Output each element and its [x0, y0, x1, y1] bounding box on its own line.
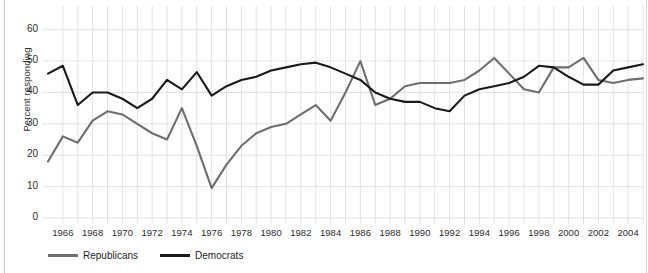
- x-tick-label: 1968: [78, 227, 108, 238]
- x-tick-label: 1984: [316, 227, 346, 238]
- x-tick-label: 1988: [375, 227, 405, 238]
- x-tick-label: 1992: [435, 227, 465, 238]
- y-tick-label: 0: [16, 211, 38, 222]
- x-tick-label: 1986: [345, 227, 375, 238]
- x-tick-label: 1978: [226, 227, 256, 238]
- legend-label-democrats: Democrats: [195, 250, 243, 261]
- x-tick-label: 1998: [524, 227, 554, 238]
- y-tick-label: 50: [16, 54, 38, 65]
- y-tick-label: 40: [16, 85, 38, 96]
- legend-item-democrats: Democrats: [160, 250, 243, 261]
- chart-legend: Republicans Democrats: [48, 250, 257, 261]
- x-tick-label: 1970: [107, 227, 137, 238]
- legend-swatch-republicans: [48, 254, 78, 257]
- legend-swatch-democrats: [160, 254, 190, 257]
- y-tick-label: 60: [16, 23, 38, 34]
- x-tick-label: 1974: [167, 227, 197, 238]
- x-tick-label: 1972: [137, 227, 167, 238]
- x-tick-label: 1996: [494, 227, 524, 238]
- x-tick-label: 1982: [286, 227, 316, 238]
- y-tick-label: 20: [16, 148, 38, 159]
- chart-figure: Percent responding 0102030405060 1966196…: [0, 0, 648, 273]
- legend-label-republicans: Republicans: [83, 250, 138, 261]
- x-tick-label: 2002: [583, 227, 613, 238]
- x-tick-label: 1966: [48, 227, 78, 238]
- x-tick-label: 1980: [256, 227, 286, 238]
- x-tick-label: 1994: [464, 227, 494, 238]
- x-tick-label: 1976: [197, 227, 227, 238]
- x-tick-label: 2004: [613, 227, 643, 238]
- x-tick-label: 2000: [554, 227, 584, 238]
- y-tick-label: 10: [16, 180, 38, 191]
- y-tick-label: 30: [16, 117, 38, 128]
- legend-item-republicans: Republicans: [48, 250, 138, 261]
- x-tick-label: 1990: [405, 227, 435, 238]
